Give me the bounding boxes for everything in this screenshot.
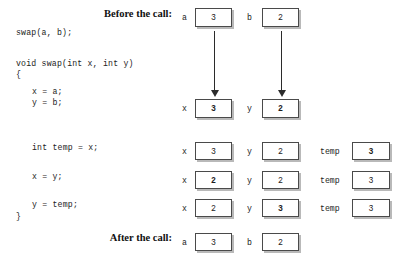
value-box-temp-after-ytemp: 3 xyxy=(352,199,390,217)
code-line-y-assign-b: y = b; xyxy=(32,98,63,108)
value-box-x-init: 3 xyxy=(195,99,232,118)
var-label-temp-after-xy: temp xyxy=(320,176,340,185)
var-label-y-after-ytemp: y xyxy=(247,204,252,213)
value-box-x-after-temp: 3 xyxy=(195,142,232,160)
code-line-y-assign-temp: y = temp; xyxy=(32,200,78,210)
value-box-y-init: 2 xyxy=(262,99,299,118)
value-box-x-after-xy: 2 xyxy=(195,171,232,189)
var-label-x-after-temp: x xyxy=(182,147,187,156)
value-box-temp-after-temp: 3 xyxy=(352,142,390,160)
var-label-x-after-xy: x xyxy=(182,176,187,185)
var-label-temp-after-ytemp: temp xyxy=(320,204,340,213)
caption-before-the-call: Before the call: xyxy=(62,8,172,19)
var-label-temp-after-temp: temp xyxy=(320,147,340,156)
value-box-y-after-temp: 2 xyxy=(262,142,299,160)
figure-canvas: Before the call: After the call: swap(a,… xyxy=(0,0,401,276)
var-label-y-after-xy: y xyxy=(247,176,252,185)
var-label-b-before: b xyxy=(247,13,252,22)
value-box-temp-after-xy: 3 xyxy=(352,171,390,189)
value-box-a-before: 3 xyxy=(195,8,232,27)
code-close-brace: } xyxy=(16,212,21,222)
value-box-b-after: 2 xyxy=(262,233,299,251)
var-label-a-before: a xyxy=(182,13,187,22)
var-label-y-init: y xyxy=(247,104,252,113)
value-box-x-after-ytemp: 2 xyxy=(195,199,232,217)
code-open-brace: { xyxy=(16,70,21,80)
value-box-y-after-ytemp: 3 xyxy=(262,199,299,217)
var-label-b-after: b xyxy=(247,238,252,247)
value-box-a-after: 3 xyxy=(195,233,232,251)
code-function-signature: void swap(int x, int y) xyxy=(16,59,134,69)
value-box-y-after-xy: 2 xyxy=(262,171,299,189)
var-label-a-after: a xyxy=(182,238,187,247)
code-call-line: swap(a, b); xyxy=(16,28,72,38)
code-line-x-assign-a: x = a; xyxy=(32,87,63,97)
value-box-b-before: 2 xyxy=(262,8,299,27)
code-line-int-temp-assign-x: int temp = x; xyxy=(32,143,98,153)
code-line-x-assign-y: x = y; xyxy=(32,172,63,182)
caption-after-the-call: After the call: xyxy=(62,232,172,243)
var-label-x-after-ytemp: x xyxy=(182,204,187,213)
var-label-y-after-temp: y xyxy=(247,147,252,156)
var-label-x-init: x xyxy=(182,104,187,113)
